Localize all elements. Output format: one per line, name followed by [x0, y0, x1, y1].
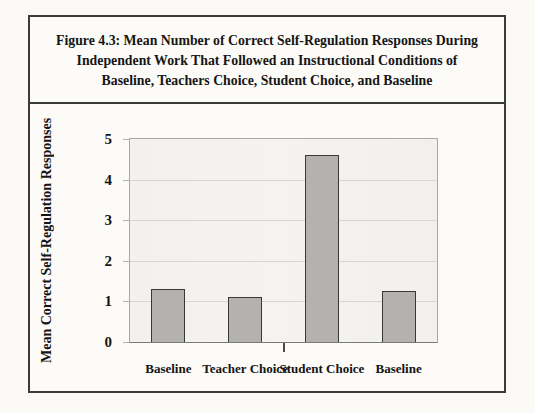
bar-baseline [151, 289, 185, 342]
x-category-label-2: Teacher Choice [202, 361, 288, 377]
figure-title-line-2: Independent Work That Followed an Instru… [30, 51, 504, 71]
y-axis-title: Mean Correct Self-Regulation Responses [36, 103, 58, 377]
y-tick-label-3: 3 [82, 211, 112, 229]
figure-title-line-3: Baseline, Teachers Choice, Student Choic… [30, 71, 504, 91]
bar-baseline [382, 291, 416, 342]
figure-title-line-1: Figure 4.3: Mean Number of Correct Self-… [30, 31, 504, 51]
y-tick-mark-2 [123, 261, 129, 262]
bar-teacher-choice [228, 297, 262, 342]
x-category-label-4: Baseline [376, 361, 422, 377]
y-tick-label-0: 0 [82, 333, 112, 351]
grid-line-y2 [130, 261, 437, 262]
y-tick-mark-1 [123, 301, 129, 302]
x-axis-tick [283, 343, 285, 352]
bar-student-choice [305, 155, 339, 342]
y-tick-label-1: 1 [82, 292, 112, 310]
y-tick-mark-3 [123, 220, 129, 221]
grid-line-y4 [130, 180, 437, 181]
plot-area [129, 138, 438, 343]
y-tick-label-2: 2 [82, 252, 112, 270]
y-tick-label-4: 4 [82, 171, 112, 189]
grid-line-y3 [130, 220, 437, 221]
y-tick-label-5: 5 [82, 130, 112, 148]
y-tick-mark-5 [123, 139, 129, 140]
y-tick-mark-0 [123, 342, 129, 343]
x-category-label-3: Student Choice [279, 361, 364, 377]
y-tick-mark-4 [123, 180, 129, 181]
x-category-label-1: Baseline [145, 361, 191, 377]
figure-title: Figure 4.3: Mean Number of Correct Self-… [30, 17, 504, 104]
page-background: Figure 4.3: Mean Number of Correct Self-… [0, 0, 535, 413]
